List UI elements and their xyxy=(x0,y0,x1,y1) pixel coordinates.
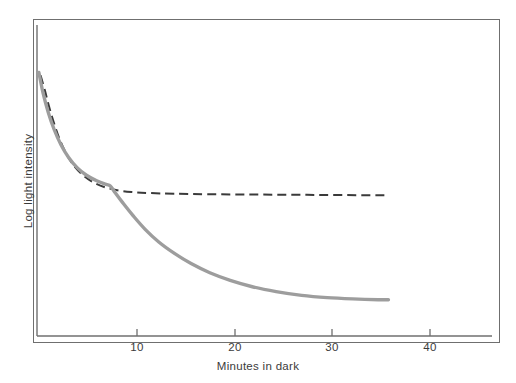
x-axis-title: Minutes in dark xyxy=(0,360,516,372)
y-axis-title: Log light intensity xyxy=(22,111,34,251)
x-axis-tick-label-30: 30 xyxy=(317,341,347,353)
x-axis-tick-label-10: 10 xyxy=(122,341,152,353)
plot-canvas xyxy=(0,0,516,383)
x-axis-tick-label-40: 40 xyxy=(415,341,445,353)
x-axis-tick-label-20: 20 xyxy=(220,341,250,353)
series-line-dark-adaptation-solid xyxy=(39,72,389,299)
figure-page: 10 20 30 40 Minutes in dark Log light in… xyxy=(0,0,516,383)
x-axis-ticks xyxy=(137,329,430,336)
